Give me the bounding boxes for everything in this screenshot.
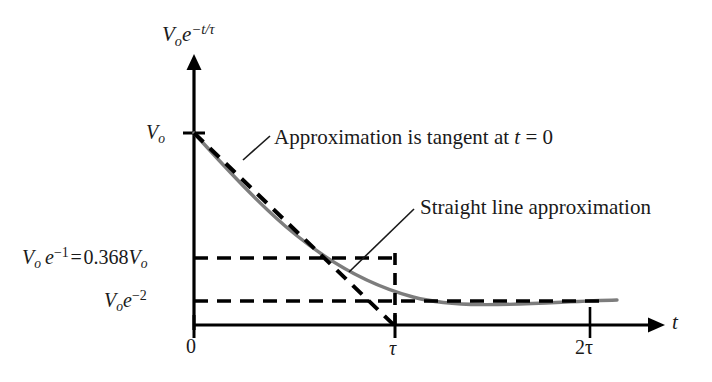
annotation-tangent-note: Approximation is tangent at t = 0 [274, 127, 553, 148]
x-tick-label-two-tau: 2τ [575, 337, 593, 357]
y-tick-0368-sub2: o [141, 256, 148, 271]
x-tick-label-tau: τ [389, 338, 396, 358]
leader-line-tangent-note [243, 136, 270, 160]
y-tick-vo-sub: o [158, 131, 165, 146]
y-tick-0368-v2: V [128, 246, 140, 268]
exponential-decay-figure: Voe−t/τ Vo Vo e−1 = 0.368Vo Voe−2 0 τ 2τ… [0, 0, 712, 382]
y-tick-label-e-minus-2: Voe−2 [104, 289, 147, 314]
y-tick-vo-v: V [146, 121, 158, 143]
annotation-tangent-prefix: Approximation is tangent at [274, 125, 514, 149]
x-tick-label-origin: 0 [186, 336, 196, 356]
y-axis-label-e: e [182, 22, 191, 46]
y-tick-em2-v: V [104, 289, 116, 311]
tangent-approximation-line [194, 133, 396, 327]
y-tick-em2-e: e [123, 289, 132, 311]
y-tick-0368-sub: o [34, 256, 41, 271]
leader-line-straight-note [349, 209, 414, 272]
y-axis [187, 54, 202, 330]
y-tick-label-vo: Vo [146, 122, 165, 146]
y-axis-label: Voe−t/τ [162, 22, 215, 48]
x-axis [194, 318, 665, 333]
plot-canvas [0, 0, 712, 382]
y-axis-label-sub: o [175, 33, 182, 49]
y-tick-0368-value: 0.368 [83, 246, 128, 268]
y-tick-0368-v: V [22, 246, 34, 268]
y-tick-em2-exp: −2 [132, 288, 147, 303]
two-tau-text: 2τ [575, 336, 593, 358]
annotation-straight-line-note: Straight line approximation [420, 197, 651, 218]
y-tick-0368-e: e [45, 246, 54, 268]
annotation-tangent-suffix: = 0 [520, 125, 553, 149]
y-axis-label-v: V [162, 22, 175, 46]
y-tick-0368-equals: = [71, 246, 82, 268]
y-tick-label-0368vo: Vo e−1 = 0.368Vo [22, 246, 147, 271]
y-axis-label-exponent: −t/τ [191, 21, 214, 37]
x-axis-label: t [672, 312, 678, 333]
y-tick-em2-sub: o [116, 299, 123, 314]
y-tick-0368-exp: −1 [54, 245, 69, 260]
